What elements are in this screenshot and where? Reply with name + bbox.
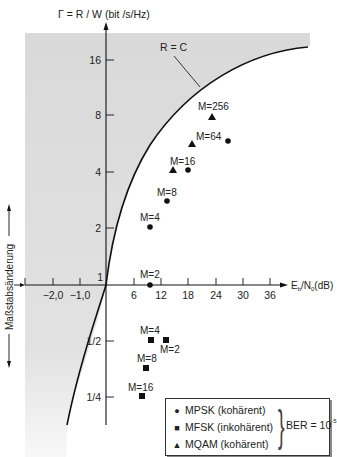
- x-tick-30: 30: [237, 289, 249, 301]
- legend-item-mfsk: ■MFSK (inkohärent): [172, 419, 273, 435]
- ber-text: BER = 10: [286, 419, 331, 431]
- square-marker-icon: [139, 393, 145, 399]
- label-fsk-m8: M=8: [137, 353, 157, 364]
- y-tick-half: 1/2: [86, 335, 101, 347]
- y-tick-16: 16: [89, 54, 101, 66]
- x-axis-arrow-icon: [280, 283, 288, 288]
- triangle-marker-icon: ▲: [172, 437, 182, 453]
- legend-box: ●MPSK (kohärent) ■MFSK (inkohärent) ▲MQA…: [165, 398, 330, 456]
- triangle-marker-icon: [208, 113, 216, 120]
- label-m256: M=256: [198, 101, 229, 112]
- square-marker-icon: [143, 365, 149, 371]
- x-tick-6: 6: [131, 289, 137, 301]
- x-tick-36: 36: [264, 289, 276, 301]
- x-axis-title: Eb/N0(dB): [291, 280, 333, 292]
- y-tick-8: 8: [95, 109, 101, 121]
- label-fsk-m4: M=4: [140, 325, 160, 336]
- scale-change-label: Maßstabsänderung: [4, 244, 15, 330]
- label-fsk-m2: M=2: [160, 344, 180, 355]
- left-stub-arrow-icon: [20, 283, 25, 287]
- x-tick-18: 18: [182, 289, 194, 301]
- legend-label-mpsk: MPSK (kohärent): [185, 404, 266, 416]
- y-tick-2: 2: [95, 222, 101, 234]
- y-axis-arrow-icon: [104, 22, 109, 30]
- circle-marker-icon: [185, 167, 191, 173]
- ber-condition: BER = 10-5: [286, 418, 337, 431]
- x-tick-m2: −2,0: [43, 289, 64, 301]
- label-m8: M=8: [157, 187, 177, 198]
- brace-icon: }: [278, 402, 285, 450]
- square-marker-icon: [163, 337, 169, 343]
- x-tick-24: 24: [210, 289, 222, 301]
- unattainable-region: [25, 33, 310, 457]
- legend-label-mqam: MQAM (kohärent): [185, 438, 268, 450]
- ber-exponent: -5: [331, 418, 336, 424]
- circle-marker-icon: [147, 282, 153, 288]
- y-axis-title: Γ = R / W (bit /s/Hz): [58, 8, 150, 20]
- x-tick-12: 12: [155, 289, 167, 301]
- label-fsk-m16: M=16: [128, 382, 154, 393]
- circle-marker-icon: ●: [172, 403, 182, 419]
- legend-label-mfsk: MFSK (inkohärent): [185, 421, 273, 433]
- legend-item-mqam: ▲MQAM (kohärent): [172, 436, 268, 452]
- label-m16: M=16: [170, 156, 196, 167]
- label-m2: M=2: [140, 269, 160, 280]
- square-marker-icon: ■: [172, 420, 182, 436]
- label-m64: M=64: [196, 131, 222, 142]
- triangle-marker-icon: [188, 140, 196, 147]
- square-marker-icon: [148, 337, 154, 343]
- y-tick-1: 1: [97, 271, 103, 283]
- scale-change-indicator: Maßstabsänderung: [4, 204, 15, 368]
- x-tick-m1: −1,0: [70, 289, 91, 301]
- circle-marker-icon: [164, 198, 170, 204]
- circle-marker-icon: [147, 224, 153, 230]
- y-tick-4: 4: [95, 166, 101, 178]
- rc-label: R = C: [160, 41, 188, 53]
- circle-marker-icon: [225, 138, 231, 144]
- triangle-marker-icon: [169, 166, 177, 173]
- label-m4: M=4: [140, 212, 160, 223]
- legend-item-mpsk: ●MPSK (kohärent): [172, 402, 266, 418]
- y-tick-quarter: 1/4: [86, 391, 101, 403]
